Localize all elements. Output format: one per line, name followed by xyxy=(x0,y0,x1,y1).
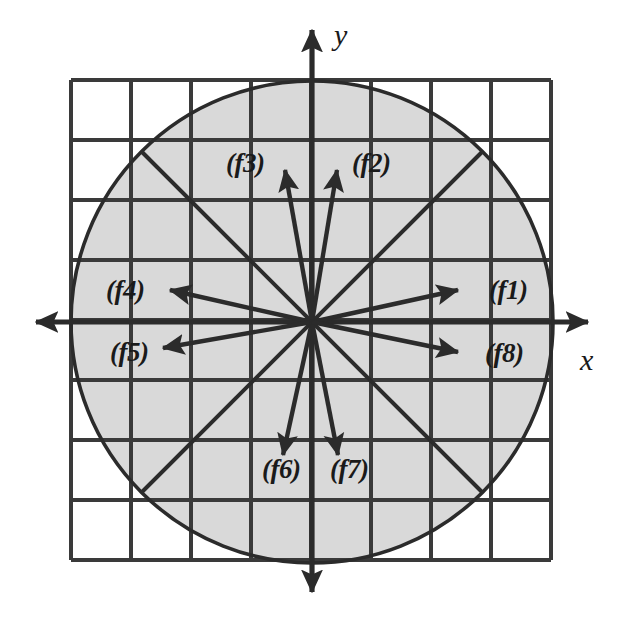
y-axis-label: y xyxy=(334,20,347,50)
vector-label-f8: (f8) xyxy=(485,340,523,367)
vector-label-f6: (f6) xyxy=(262,456,300,483)
vector-label-f5: (f5) xyxy=(110,339,148,366)
vector-diagram-svg xyxy=(0,0,629,630)
vector-label-f7: (f7) xyxy=(330,456,368,483)
x-axis-label: x xyxy=(580,345,593,375)
vector-label-f3: (f3) xyxy=(226,150,264,177)
figure-canvas: (f1)(f2)(f3)(f4)(f5)(f6)(f7)(f8) y x xyxy=(0,0,629,630)
vector-label-f1: (f1) xyxy=(489,277,527,304)
vector-label-f4: (f4) xyxy=(106,277,144,304)
vector-label-f2: (f2) xyxy=(352,150,390,177)
